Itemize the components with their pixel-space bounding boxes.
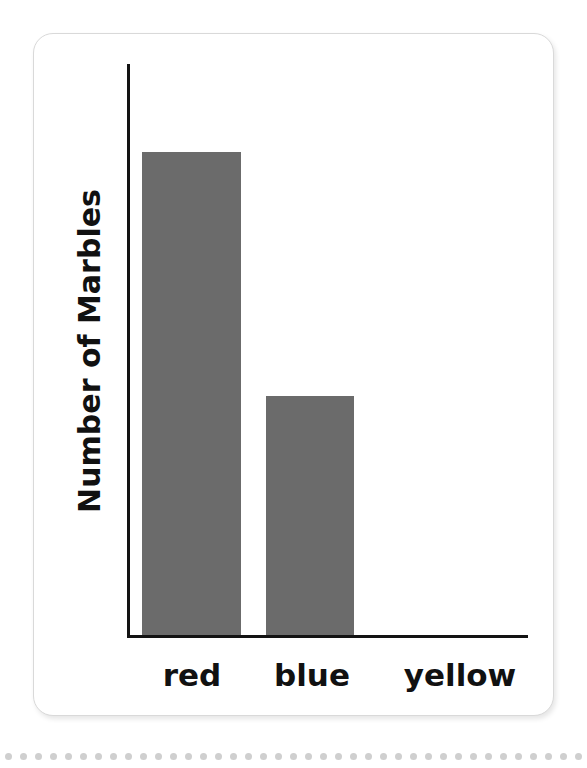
x-axis-tick-label-red: red — [124, 652, 260, 698]
bar-chart: Number of Marbles red blue yellow — [34, 34, 553, 715]
decorative-dot — [500, 753, 507, 760]
bar-blue — [266, 396, 354, 635]
decorative-dot — [320, 753, 327, 760]
decorative-dot — [515, 753, 522, 760]
decorative-dot — [440, 753, 447, 760]
decorative-dot — [170, 753, 177, 760]
decorative-dot — [110, 753, 117, 760]
decorative-dot — [365, 753, 372, 760]
chart-card: Number of Marbles red blue yellow — [33, 33, 554, 716]
decorative-dot — [50, 753, 57, 760]
decorative-dot — [155, 753, 162, 760]
decorative-dot — [215, 753, 222, 760]
decorative-dot — [350, 753, 357, 760]
decorative-dot — [425, 753, 432, 760]
decorative-dot — [260, 753, 267, 760]
decorative-dot — [65, 753, 72, 760]
decorative-dot — [185, 753, 192, 760]
decorative-dot — [335, 753, 342, 760]
decorative-dot — [5, 753, 12, 760]
decorative-dot — [245, 753, 252, 760]
decorative-dot — [80, 753, 87, 760]
x-axis-tick-label-yellow: yellow — [382, 652, 538, 698]
decorative-dot — [305, 753, 312, 760]
decorative-dot — [530, 753, 537, 760]
y-axis-line — [127, 64, 130, 638]
decorative-dot — [230, 753, 237, 760]
decorative-dot — [20, 753, 27, 760]
decorative-dot-rule — [0, 751, 587, 761]
decorative-dot — [200, 753, 207, 760]
decorative-dot — [410, 753, 417, 760]
decorative-dot — [35, 753, 42, 760]
decorative-dot — [455, 753, 462, 760]
decorative-dot — [140, 753, 147, 760]
decorative-dot — [290, 753, 297, 760]
bar-red — [142, 152, 241, 635]
decorative-dot — [575, 753, 582, 760]
decorative-dot — [395, 753, 402, 760]
decorative-dot — [560, 753, 567, 760]
decorative-dot — [275, 753, 282, 760]
x-axis-line — [127, 635, 528, 638]
decorative-dot — [485, 753, 492, 760]
y-axis-label: Number of Marbles — [63, 64, 115, 638]
decorative-dot — [125, 753, 132, 760]
decorative-dot — [95, 753, 102, 760]
decorative-dot — [470, 753, 477, 760]
x-axis-tick-label-blue: blue — [244, 652, 380, 698]
decorative-dot — [545, 753, 552, 760]
decorative-dot — [380, 753, 387, 760]
